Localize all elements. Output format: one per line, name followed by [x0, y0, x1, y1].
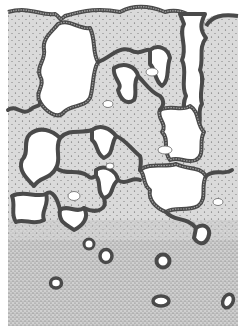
gland-lumen	[38, 22, 98, 115]
histology-illustration	[0, 0, 245, 326]
duct	[84, 239, 94, 249]
duct	[100, 250, 112, 263]
duct	[51, 278, 62, 288]
duct	[153, 296, 169, 306]
gland-lumen	[12, 194, 47, 223]
duct	[157, 255, 170, 268]
